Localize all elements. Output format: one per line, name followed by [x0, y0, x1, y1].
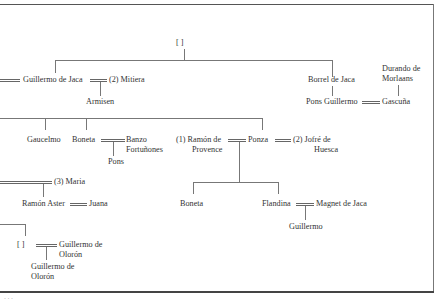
- connector-line: [100, 82, 101, 96]
- connector-line: [55, 60, 333, 61]
- marriage-line: [228, 139, 246, 142]
- node-magnet-de-jaca: Magnet de Jaca: [316, 199, 367, 209]
- node-borrel-de-jaca: Borrel de Jaca: [308, 75, 355, 85]
- node-armisen: Armisen: [86, 97, 114, 107]
- node-mitiera: (2) Mitiera: [109, 75, 145, 85]
- marriage-line: [0, 79, 20, 82]
- node-gaucelmo: Gaucelmo: [27, 135, 61, 145]
- marriage-line: [70, 203, 87, 206]
- connector-line: [0, 224, 26, 225]
- connector-line: [25, 224, 26, 236]
- node-jofre-line2: Huesca: [314, 145, 338, 155]
- node-ponza: Ponza: [248, 135, 268, 145]
- connector-line: [332, 86, 333, 96]
- node-guillermo-de-oloron-child-line1: Guillermo de: [31, 262, 74, 272]
- marriage-line: [275, 139, 291, 142]
- node-pons: Pons: [108, 157, 124, 167]
- node-durando-line1: Durando de: [382, 64, 420, 74]
- marriage-line: [90, 79, 107, 82]
- node-maria: (3) Maria: [54, 177, 85, 187]
- connector-line: [398, 85, 399, 96]
- connector-line: [55, 60, 56, 73]
- node-durando-line2: Morlaans: [382, 74, 413, 84]
- connector-line: [193, 182, 279, 183]
- node-pons-guillermo: Pons Guillermo: [306, 97, 358, 107]
- connector-line: [305, 206, 306, 220]
- frame-right-border: [433, 4, 434, 292]
- node-boneta-2: Boneta: [180, 199, 203, 209]
- node-guillermo-de-jaca: Guillermo de Jaca: [23, 75, 83, 85]
- frame-bottom-border: [0, 291, 434, 293]
- genealogy-diagram: [ ] Guillermo de Jaca (2) Mitiera Armise…: [0, 0, 435, 305]
- node-guillermo-de-oloron-child-line2: Olorón: [31, 272, 54, 282]
- node-guillermo-de-oloron-spouse-line1: Guillermo de: [59, 240, 102, 250]
- node-guillermo: Guillermo: [289, 222, 323, 232]
- connector-line: [184, 49, 185, 60]
- frame-top-border: [0, 4, 433, 5]
- connector-line: [45, 118, 46, 130]
- marriage-line: [362, 101, 380, 104]
- connector-line: [0, 118, 263, 119]
- marriage-line: [0, 181, 52, 184]
- connector-line: [86, 118, 87, 130]
- connector-line: [239, 142, 240, 182]
- node-banzo-line2: Fortuñones: [126, 145, 163, 155]
- node-guillermo-de-oloron-spouse-line2: Olorón: [59, 250, 82, 260]
- connector-line: [113, 142, 114, 156]
- footer-note: · · ·: [4, 296, 13, 302]
- node-banzo-line1: Banzo: [126, 135, 147, 145]
- node-juana: Juana: [89, 199, 108, 209]
- node-gascuna: Gascuña: [382, 97, 410, 107]
- node-ramon-de-provence-line2: Provence: [192, 145, 222, 155]
- connector-line: [278, 182, 279, 194]
- node-boneta: Boneta: [72, 135, 95, 145]
- node-ramon-aster: Ramón Aster: [22, 199, 65, 209]
- connector-line: [46, 247, 47, 260]
- node-ramon-de-provence-line1: (1) Ramón de: [176, 135, 221, 145]
- connector-line: [43, 184, 44, 197]
- node-root-unknown: [ ]: [176, 38, 184, 48]
- connector-line: [193, 182, 194, 194]
- node-jofre-line1: (2) Jofré de: [293, 135, 331, 145]
- node-flandina: Flandina: [262, 199, 291, 209]
- node-unknown-2: [ ]: [17, 240, 25, 250]
- connector-line: [262, 118, 263, 130]
